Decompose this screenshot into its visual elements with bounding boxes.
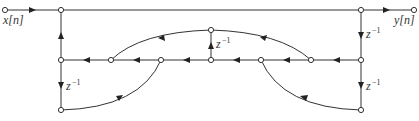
- output-label: y[n]: [393, 13, 415, 27]
- arrow-output: [383, 7, 390, 13]
- svg-text:−1: −1: [372, 78, 381, 87]
- arrow-mid-5: [283, 57, 290, 63]
- arc-upper-right: [211, 30, 311, 60]
- arrow-center-delay: [208, 42, 214, 49]
- input-label: x[n]: [2, 13, 24, 27]
- node-top-left: [58, 7, 63, 12]
- node-mid-5: [258, 57, 263, 62]
- arc-upper-left: [111, 30, 211, 60]
- node-mid-2: [108, 57, 113, 62]
- node-upper: [208, 27, 213, 32]
- node-mid-1: [58, 57, 63, 62]
- arc-lower-right: [261, 60, 361, 110]
- svg-text:−1: −1: [72, 78, 81, 87]
- svg-text:z: z: [215, 37, 221, 51]
- svg-text:z: z: [365, 27, 371, 41]
- node-output: [411, 7, 416, 12]
- arrow-right-delay-2: [358, 82, 364, 89]
- arrow-right-delay-1: [358, 32, 364, 39]
- node-input: [2, 7, 7, 12]
- svg-text:−1: −1: [222, 36, 231, 45]
- delay-label-right-2: z −1: [365, 78, 381, 93]
- node-mid-7: [358, 57, 363, 62]
- arrow-mid-1: [83, 57, 90, 63]
- arrow-input: [29, 7, 36, 13]
- node-mid-4: [208, 57, 213, 62]
- node-mid-3: [158, 57, 163, 62]
- arrow-left-delay: [58, 82, 64, 89]
- arrow-mid-3: [183, 57, 190, 63]
- delay-label-left: z −1: [65, 78, 81, 93]
- arrow-mid-4: [233, 57, 240, 63]
- node-bottom-left: [58, 107, 63, 112]
- signal-flow-graph: x[n] y[n] z −1 z −1 z −1 z −1: [0, 0, 419, 121]
- node-bottom-right: [358, 107, 363, 112]
- arrow-mid-6: [333, 57, 340, 63]
- arrow-left-up: [58, 32, 64, 39]
- delay-label-right-1: z −1: [365, 26, 381, 41]
- node-mid-6: [308, 57, 313, 62]
- svg-text:−1: −1: [372, 26, 381, 35]
- svg-text:z: z: [365, 79, 371, 93]
- svg-text:z: z: [65, 79, 71, 93]
- node-top-right: [358, 7, 363, 12]
- delay-label-center: z −1: [215, 36, 231, 51]
- arrow-mid-2: [133, 57, 140, 63]
